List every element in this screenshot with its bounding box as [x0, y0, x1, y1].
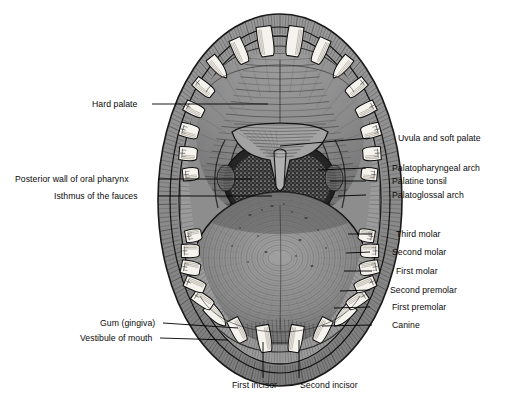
- label-second-molar: Second molar: [392, 247, 446, 257]
- label-second-incisor: Second incisor: [300, 380, 358, 390]
- label-palatopharyngeal-arch: Palatopharyngeal arch: [392, 163, 480, 173]
- label-third-molar: Third molar: [396, 229, 440, 239]
- figure-caption-fragment: [2, 392, 122, 400]
- label-palatoglossal-arch: Palatoglossal arch: [392, 190, 464, 200]
- label-gum-gingiva: Gum (gingiva): [100, 318, 155, 328]
- label-canine: Canine: [392, 320, 420, 330]
- label-first-premolar: First premolar: [392, 302, 446, 312]
- oral-cavity-illustration: [0, 0, 518, 402]
- label-hard-palate: Hard palate: [92, 99, 137, 109]
- label-posterior-wall-oral-pharynx: Posterior wall of oral pharynx: [15, 174, 129, 184]
- label-first-incisor: First incisor: [232, 380, 277, 390]
- label-isthmus-of-fauces: Isthmus of the fauces: [54, 191, 138, 201]
- label-uvula-and-soft-palate: Uvula and soft palate: [398, 133, 481, 143]
- label-palatine-tonsil: Palatine tonsil: [392, 176, 447, 186]
- label-second-premolar: Second premolar: [390, 285, 457, 295]
- label-vestibule-of-mouth: Vestibule of mouth: [80, 333, 152, 343]
- oral-cavity-figure: Hard palatePosterior wall of oral pharyn…: [0, 0, 518, 402]
- label-first-molar: First molar: [396, 266, 438, 276]
